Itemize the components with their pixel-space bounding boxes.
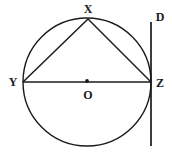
tangent-label-d: D: [156, 11, 165, 23]
vertex-label-z: Z: [156, 77, 164, 89]
center-label-o: O: [83, 89, 92, 101]
chord-segment-xy: [23, 19, 88, 82]
geometry-diagram: X Y Z O D: [0, 0, 172, 156]
chord-segment-xz: [88, 19, 151, 82]
vertex-label-y: Y: [9, 76, 18, 88]
vertex-label-x: X: [84, 3, 93, 15]
center-point-dot: [85, 79, 89, 83]
diagram-canvas: [0, 0, 172, 156]
